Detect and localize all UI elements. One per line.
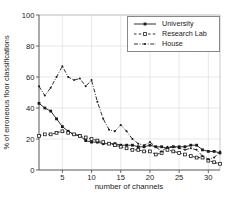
marker-dot	[102, 118, 104, 120]
marker-dot	[172, 146, 174, 148]
marker-dot	[219, 150, 221, 152]
x-axis-label: number of channels	[95, 182, 164, 191]
marker-open-square	[55, 131, 58, 134]
y-tick-label-40: 40	[26, 104, 34, 113]
series-line-university	[39, 103, 220, 153]
marker-filled-square	[49, 110, 52, 113]
x-tick-label-30: 30	[204, 173, 212, 182]
series-markers-university	[38, 102, 222, 154]
marker-dot	[79, 78, 81, 80]
floor-classification-error-chart: 51015202530020406080100 number of channe…	[0, 0, 228, 198]
marker-open-square	[189, 155, 192, 158]
marker-dot	[137, 143, 139, 145]
marker-dot	[120, 124, 122, 126]
marker-open-square	[49, 133, 52, 136]
marker-filled-square	[38, 102, 41, 105]
marker-dot	[143, 144, 145, 146]
series-markers-research-lab	[38, 130, 222, 165]
series-layer	[38, 65, 222, 165]
y-tick-label-100: 100	[22, 11, 35, 20]
marker-open-square	[154, 153, 157, 156]
marker-open-square	[125, 147, 128, 150]
marker-open-square	[96, 139, 99, 142]
marker-open-square	[166, 148, 169, 151]
legend-line-sample-research-lab	[132, 30, 158, 38]
marker-filled-square	[207, 150, 210, 153]
marker-dot	[67, 76, 69, 78]
marker-dot	[50, 87, 52, 89]
marker-filled-square	[149, 144, 152, 147]
marker-open-square	[67, 131, 70, 134]
marker-dot	[91, 79, 93, 81]
legend-label-house: House	[162, 39, 183, 49]
marker-dot	[85, 85, 87, 87]
marker-open-square	[84, 136, 87, 139]
marker-filled-square	[201, 148, 204, 151]
marker-open-square	[114, 144, 117, 147]
legend-item-house: House	[132, 39, 216, 49]
marker-dot	[196, 149, 198, 151]
marker-open-square	[137, 148, 140, 151]
legend-line-sample-university	[132, 20, 158, 28]
marker-open-square	[119, 145, 122, 148]
marker-dot	[207, 158, 209, 160]
marker-dot	[96, 101, 98, 103]
marker-open-square	[144, 33, 147, 36]
marker-dot	[73, 79, 75, 81]
marker-filled-square	[61, 125, 64, 128]
marker-open-square	[90, 138, 93, 141]
legend-item-research-lab: Research Lab	[132, 29, 216, 39]
marker-filled-square	[55, 117, 58, 120]
marker-dot	[56, 76, 58, 78]
marker-dot	[190, 147, 192, 149]
y-tick-label-80: 80	[26, 42, 34, 51]
marker-filled-square	[144, 23, 147, 26]
series-line-research-lab	[39, 131, 220, 164]
marker-open-square	[108, 142, 111, 145]
y-tick-label-60: 60	[26, 73, 34, 82]
x-tick-label-15: 15	[117, 173, 125, 182]
marker-dot	[38, 85, 40, 87]
legend-item-university: University	[132, 19, 216, 29]
marker-dot	[166, 146, 168, 148]
marker-dot	[108, 129, 110, 131]
marker-open-square	[131, 148, 134, 151]
marker-dot	[61, 65, 63, 67]
marker-open-square	[73, 133, 76, 136]
y-tick-label-20: 20	[26, 135, 34, 144]
marker-filled-square	[213, 150, 216, 153]
legend-line-sample-house	[132, 40, 158, 48]
marker-dot	[178, 147, 180, 149]
marker-filled-square	[84, 139, 87, 142]
marker-open-square	[184, 153, 187, 156]
marker-filled-square	[184, 145, 187, 148]
marker-open-square	[149, 150, 152, 153]
marker-open-square	[143, 150, 146, 153]
marker-dot	[184, 149, 186, 151]
series-markers-house	[38, 65, 221, 160]
marker-open-square	[61, 130, 64, 133]
marker-dot	[149, 141, 151, 143]
x-tick-label-25: 25	[175, 173, 183, 182]
marker-open-square	[43, 133, 46, 136]
marker-filled-square	[90, 141, 93, 144]
y-tick-label-0: 0	[30, 166, 34, 175]
marker-open-square	[78, 135, 81, 138]
marker-dot	[126, 130, 128, 132]
marker-dot	[161, 150, 163, 152]
legend-label-university: University	[162, 19, 194, 29]
marker-open-square	[172, 150, 175, 153]
marker-filled-square	[137, 145, 140, 148]
marker-dot	[144, 43, 146, 45]
marker-dot	[201, 155, 203, 157]
legend: UniversityResearch LabHouse	[127, 16, 220, 52]
marker-filled-square	[189, 144, 192, 147]
legend-label-research-lab: Research Lab	[162, 29, 207, 39]
marker-dot	[131, 138, 133, 140]
marker-filled-square	[125, 144, 128, 147]
marker-filled-square	[195, 144, 198, 147]
marker-open-square	[178, 152, 181, 155]
marker-filled-square	[131, 144, 134, 147]
marker-filled-square	[160, 145, 163, 148]
marker-open-square	[219, 162, 222, 165]
